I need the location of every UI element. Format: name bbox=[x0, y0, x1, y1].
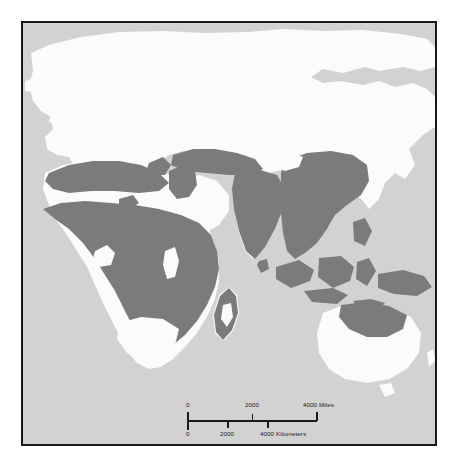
scale-bar: 0 2000 4000 Miles 0 2000 4000 Kilometers bbox=[186, 402, 331, 442]
scale-miles-end-label: 4000 Miles bbox=[303, 402, 334, 408]
map-frame bbox=[21, 21, 437, 446]
map-svg bbox=[23, 23, 435, 444]
distribution-range-map-figure: 0 2000 4000 Miles 0 2000 4000 Kilometers bbox=[0, 0, 460, 468]
scale-miles-tick-2000: 2000 bbox=[245, 402, 259, 408]
scale-km-tick-2000: 2000 bbox=[220, 431, 234, 437]
scale-km-end-label: 4000 Kilometers bbox=[260, 431, 306, 437]
scale-miles-tick-0: 0 bbox=[186, 402, 190, 408]
map-canvas bbox=[23, 23, 435, 444]
scale-km-tick-0: 0 bbox=[186, 431, 190, 437]
